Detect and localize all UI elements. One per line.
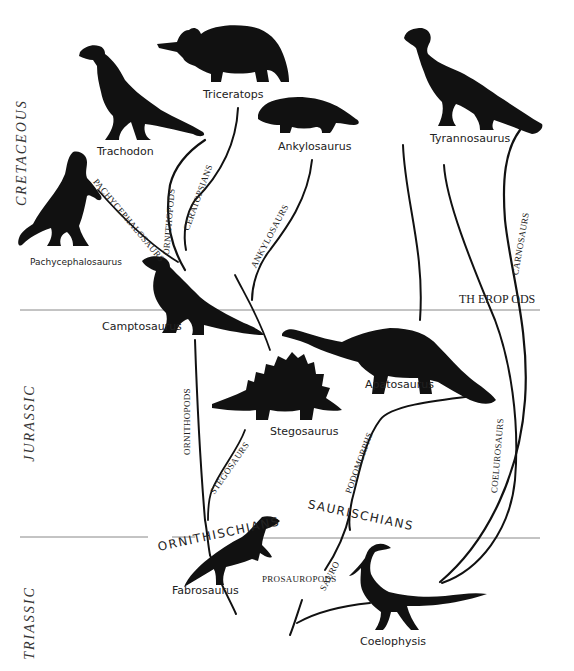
coelophysis-silhouette [325,540,490,635]
stegosaurus-silhouette [208,350,343,428]
dino-name-pachycephalosaurus: Pachycephalosaurus [30,257,122,267]
period-label-triassic: TRIASSIC [22,583,38,663]
pachycephalosaurus-silhouette [15,150,105,255]
dinosaur-phylogeny-diagram: CRETACEOUS JURASSIC TRIASSIC Trachodon T… [0,0,574,671]
group-label-theropods: TH EROP ODS [459,292,535,307]
dino-name-ankylosaurus: Ankylosaurus [278,140,351,153]
tyrannosaurus-silhouette [402,26,547,146]
period-label-jurassic: JURASSIC [22,383,38,463]
dino-name-tyrannosaurus: Tyrannosaurus [430,132,510,145]
dino-name-triceratops: Triceratops [203,88,264,101]
prosauropods-line [290,600,302,635]
dino-name-camptosaurus: Camptosaurus [102,320,182,333]
lineage-label-ornithopods-lower: ORNITHOPODS [182,388,192,455]
dino-name-stegosaurus: Stegosaurus [270,425,338,438]
dino-name-apatosaurus: Apatosaurus [365,378,434,391]
dino-name-fabrosaurus: Fabrosaurus [172,584,239,597]
dino-name-trachodon: Trachodon [97,145,154,158]
theropod-branch-a [403,145,421,320]
ankylosaurus-silhouette [256,93,361,141]
triceratops-silhouette [155,22,290,87]
lineage-label-prosauropods: PROSAUROPODS [262,574,337,584]
dino-name-coelophysis: Coelophysis [360,635,426,648]
